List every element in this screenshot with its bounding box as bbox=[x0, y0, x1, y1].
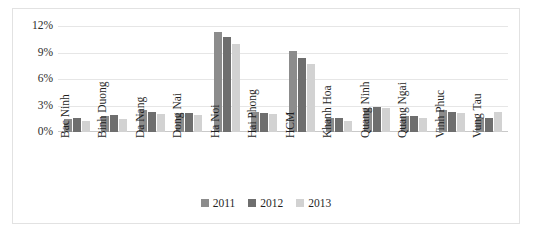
y-axis-tick-label: 3% bbox=[38, 100, 53, 112]
bar-2013[interactable] bbox=[269, 114, 277, 132]
legend-swatch-icon bbox=[201, 199, 209, 207]
plot-area: 0%3%6%9%12%Bac NinhBinh DuongDa NangDong… bbox=[58, 26, 508, 132]
x-axis-category-label: Bac Ninh bbox=[60, 94, 72, 138]
bar-2012[interactable] bbox=[373, 107, 381, 132]
x-axis-category-label: Quang Ninh bbox=[360, 81, 372, 138]
bar-group: Da Nang bbox=[133, 26, 171, 132]
legend-swatch-icon bbox=[248, 199, 256, 207]
bar-group: Vung Tau bbox=[471, 26, 509, 132]
legend-swatch-icon bbox=[296, 199, 304, 207]
bar-2012[interactable] bbox=[73, 118, 81, 132]
legend-label: 2012 bbox=[260, 198, 283, 210]
bar-2013[interactable] bbox=[494, 112, 502, 132]
bar-group: HCM bbox=[283, 26, 321, 132]
bar-2013[interactable] bbox=[419, 118, 427, 132]
bar-2013[interactable] bbox=[382, 108, 390, 132]
bar-2013[interactable] bbox=[82, 121, 90, 132]
x-axis-category-label: Ha Noi bbox=[210, 104, 222, 138]
bar-group: Dong Nai bbox=[171, 26, 209, 132]
x-axis-category-label: Vinh Phuc bbox=[435, 90, 447, 138]
bar-group: Vinh Phuc bbox=[433, 26, 471, 132]
bar-2012[interactable] bbox=[410, 116, 418, 132]
y-axis-tick-label: 12% bbox=[32, 20, 53, 32]
bar-group: Binh Duong bbox=[96, 26, 134, 132]
x-axis-category-label: Khanh Hoa bbox=[322, 85, 334, 138]
x-axis-category-label: Dong Nai bbox=[172, 93, 184, 138]
bar-2012[interactable] bbox=[185, 113, 193, 132]
bar-2013[interactable] bbox=[119, 119, 127, 132]
bar-2012[interactable] bbox=[335, 118, 343, 132]
bar-group: Quang Ngai bbox=[396, 26, 434, 132]
bar-2012[interactable] bbox=[110, 115, 118, 132]
bar-2012[interactable] bbox=[485, 118, 493, 132]
bar-2012[interactable] bbox=[448, 112, 456, 132]
y-axis-tick-label: 0% bbox=[38, 126, 53, 138]
bar-group: Quang Ninh bbox=[358, 26, 396, 132]
bar-2013[interactable] bbox=[157, 114, 165, 132]
y-axis-tick-label: 9% bbox=[38, 47, 53, 59]
bar-2013[interactable] bbox=[457, 113, 465, 132]
chart-legend: 201120122013 bbox=[13, 198, 519, 210]
x-axis-category-label: Quang Ngai bbox=[397, 82, 409, 138]
bar-2013[interactable] bbox=[344, 121, 352, 132]
x-axis-category-label: HCM bbox=[285, 112, 297, 138]
x-axis-category-label: Da Nang bbox=[135, 97, 147, 138]
bar-2012[interactable] bbox=[148, 112, 156, 132]
bar-group: Ha Noi bbox=[208, 26, 246, 132]
bar-2013[interactable] bbox=[307, 64, 315, 132]
bar-2012[interactable] bbox=[260, 113, 268, 132]
legend-label: 2011 bbox=[213, 198, 236, 210]
bar-2013[interactable] bbox=[232, 44, 240, 132]
bar-2012[interactable] bbox=[298, 58, 306, 132]
x-axis-category-label: Binh Duong bbox=[97, 81, 109, 138]
bar-group: Khanh Hoa bbox=[321, 26, 359, 132]
legend-item-2011[interactable]: 2011 bbox=[201, 198, 236, 210]
bar-group: Bac Ninh bbox=[58, 26, 96, 132]
legend-label: 2013 bbox=[308, 198, 331, 210]
chart-container: 0%3%6%9%12%Bac NinhBinh DuongDa NangDong… bbox=[12, 8, 520, 224]
bar-2013[interactable] bbox=[194, 115, 202, 132]
legend-item-2013[interactable]: 2013 bbox=[296, 198, 331, 210]
x-axis-category-label: Vung Tau bbox=[472, 93, 484, 138]
bar-group: Hai Phong bbox=[246, 26, 284, 132]
bar-2012[interactable] bbox=[223, 37, 231, 132]
x-axis-category-label: Hai Phong bbox=[247, 89, 259, 138]
legend-item-2012[interactable]: 2012 bbox=[248, 198, 283, 210]
y-axis-tick-label: 6% bbox=[38, 73, 53, 85]
